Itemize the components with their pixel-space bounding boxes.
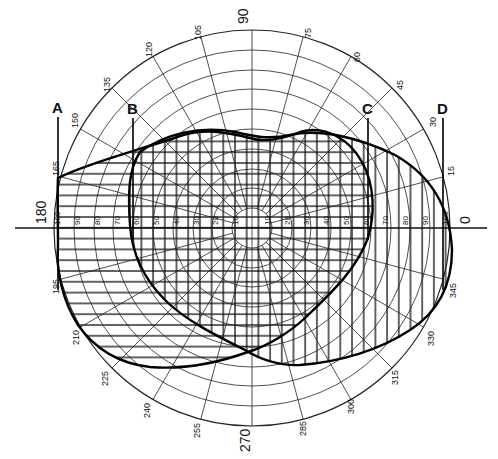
angle-label-75: 75 <box>303 28 313 38</box>
ring-label: 10 <box>231 216 240 225</box>
angle-label-315: 315 <box>390 370 400 385</box>
angle-label-120: 120 <box>144 42 154 57</box>
angle-label-255: 255 <box>192 423 202 438</box>
angle-label-105: 105 <box>193 25 203 40</box>
ring-label: 50 <box>342 216 351 225</box>
polar-field-diagram: A B C D 90 270 180 0 15 30 45 60 75 105 … <box>0 0 498 459</box>
ring-label: 80 <box>93 216 102 225</box>
axis-label-90: 90 <box>235 8 251 24</box>
angle-label-225: 225 <box>100 371 110 386</box>
angle-label-45: 45 <box>395 80 405 90</box>
axis-label-0: 0 <box>457 216 473 224</box>
ring-label: 50 <box>152 216 161 225</box>
angle-label-135: 135 <box>102 77 112 92</box>
marker-label-b: B <box>127 100 138 117</box>
ring-label: 10 <box>263 216 272 225</box>
angle-label-330: 330 <box>426 331 436 346</box>
ring-label: 100 <box>53 211 62 225</box>
ring-label: 60 <box>132 216 141 225</box>
ring-label: 30 <box>302 216 311 225</box>
angle-label-60: 60 <box>352 52 362 62</box>
angle-label-150: 150 <box>70 113 80 128</box>
ring-label: 90 <box>421 216 430 225</box>
ring-label: 30 <box>192 216 201 225</box>
ring-label: 20 <box>211 216 220 225</box>
ring-label: 80 <box>401 216 410 225</box>
marker-label-a: A <box>52 99 63 116</box>
angle-label-195: 195 <box>51 279 61 294</box>
ring-label: 40 <box>322 216 331 225</box>
marker-label-c: C <box>362 100 373 117</box>
angle-label-300: 300 <box>346 399 356 414</box>
angle-label-15: 15 <box>446 166 456 176</box>
angle-label-240: 240 <box>142 403 152 418</box>
ring-label: 20 <box>283 216 292 225</box>
angle-label-165: 165 <box>51 161 61 176</box>
angle-label-345: 345 <box>448 283 458 298</box>
ring-label: 70 <box>113 216 122 225</box>
angle-label-285: 285 <box>298 421 308 436</box>
ring-label: 40 <box>172 216 181 225</box>
angle-label-30: 30 <box>428 117 438 127</box>
angle-label-210: 210 <box>71 330 81 345</box>
axis-label-270: 270 <box>237 428 253 452</box>
ring-label: 70 <box>381 216 390 225</box>
axis-label-180: 180 <box>33 200 49 224</box>
ring-label: 60 <box>362 216 371 225</box>
ring-label: 90 <box>73 216 82 225</box>
marker-label-d: D <box>437 100 448 117</box>
ring-label: 100 <box>441 211 450 225</box>
